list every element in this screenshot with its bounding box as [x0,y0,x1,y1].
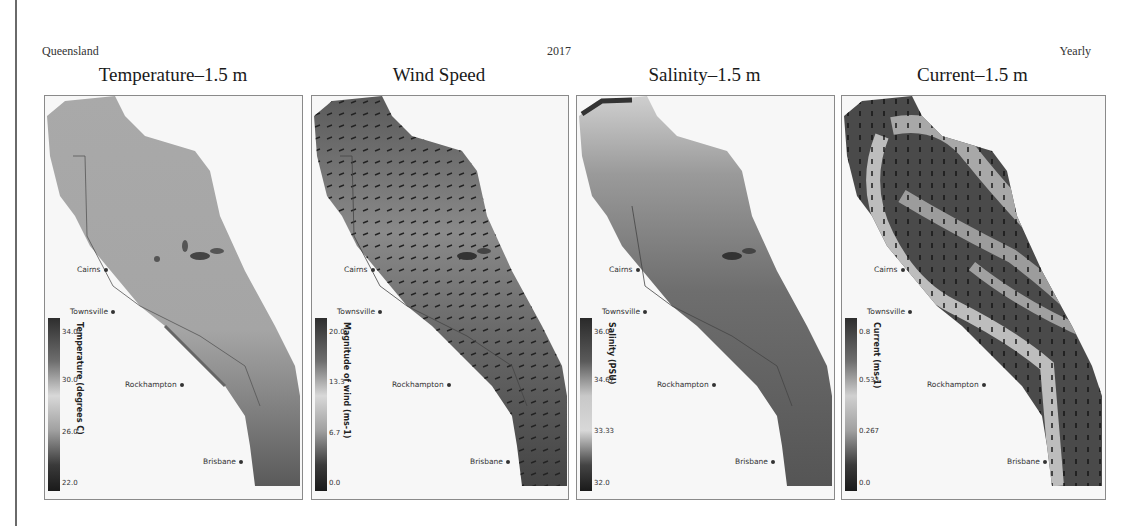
region-label: Queensland [42,44,99,59]
temperature-map-panel: Cairns Townsville Rockhampton Brisbane 3… [44,95,303,500]
colorbar-tick: 0.0 [859,479,870,487]
city-label-brisbane: Brisbane [1007,457,1047,466]
temperature-colorbar [48,318,60,491]
wind-map-panel: Cairns Townsville Rockhampton Brisbane 2… [311,95,569,500]
page-margin-line [15,0,17,526]
city-label-cairns: Cairns [344,265,375,274]
temperature-map [45,96,302,499]
salinity-colorbar [580,318,592,491]
city-label-rockhampton: Rockhampton [392,380,451,389]
colorbar-label: Current (ms-1) [872,322,881,388]
colorbar-tick: 6.7 [329,429,340,437]
current-map-panel: Cairns Townsville Rockhampton Brisbane 0… [841,95,1106,500]
city-label-townsville: Townsville [867,307,912,316]
colorbar-label: Magnitude of wind (ms-1) [342,322,351,438]
city-label-rockhampton: Rockhampton [657,380,716,389]
panel-title-current: Current–1.5 m [841,64,1104,86]
current-map [842,96,1105,499]
city-label-townsville: Townsville [337,307,382,316]
colorbar-tick: 32.0 [594,479,610,487]
city-label-townsville: Townsville [70,307,115,316]
colorbar-tick: 22.0 [62,479,78,487]
wind-colorbar [315,318,327,491]
colorbar-tick: 0.8 [859,328,870,336]
wind-map [312,96,568,499]
colorbar-tick: 0.0 [329,479,340,487]
period-label: Yearly [1060,44,1091,59]
city-label-townsville: Townsville [602,307,647,316]
salinity-map [577,96,834,499]
city-label-brisbane: Brisbane [735,457,775,466]
colorbar-label: Temperature (degrees C) [75,322,84,435]
current-colorbar [845,318,857,491]
city-label-cairns: Cairns [77,265,108,274]
colorbar-tick: 33.33 [594,427,614,435]
city-label-brisbane: Brisbane [470,457,510,466]
colorbar-tick: 0.267 [859,427,879,435]
city-label-brisbane: Brisbane [203,457,243,466]
city-label-rockhampton: Rockhampton [927,380,986,389]
panel-title-salinity: Salinity–1.5 m [576,64,833,86]
panel-title-wind: Wind Speed [311,64,567,86]
city-label-cairns: Cairns [874,265,905,274]
colorbar-label: Salinity (PSU) [607,322,616,384]
salinity-map-panel: Cairns Townsville Rockhampton Brisbane 3… [576,95,835,500]
year-label: 2017 [547,44,571,59]
city-label-cairns: Cairns [609,265,640,274]
panel-title-temperature: Temperature–1.5 m [44,64,302,86]
city-label-rockhampton: Rockhampton [125,380,184,389]
